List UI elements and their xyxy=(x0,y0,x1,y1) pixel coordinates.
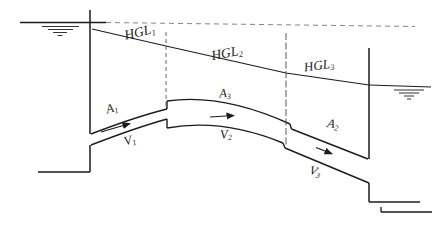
right-ground-line xyxy=(381,207,432,212)
pipe-segment1-top xyxy=(91,109,167,134)
left-reservoir xyxy=(20,10,106,172)
right-reservoir xyxy=(369,48,432,212)
pipe-step2-bottom xyxy=(283,143,285,148)
right-water-surface-icon xyxy=(394,90,424,99)
right-water-surface-line xyxy=(369,85,431,87)
pipe-segment3-bottom xyxy=(285,148,369,183)
area2-label: A2 xyxy=(326,117,340,132)
hgl3-label-base: HGL xyxy=(303,56,331,74)
hgl2-label-base: HGL xyxy=(210,43,239,62)
pipe-flow-diagram: HGL1 HGL2 HGL3 A1 A3 A2 V1 V2 V3 xyxy=(0,0,448,229)
diagram-linework xyxy=(0,0,448,229)
velocity2-label: V2 xyxy=(220,128,233,143)
flow-arrow-v2-icon xyxy=(210,116,234,118)
velocity2-label-subscript: 2 xyxy=(228,133,233,142)
area3-label: A3 xyxy=(219,87,232,102)
pipe-step2-top xyxy=(290,124,292,129)
pipe-segment2-top xyxy=(167,99,290,124)
flow-arrows xyxy=(101,116,332,154)
flow-arrow-v3-icon xyxy=(316,148,332,154)
left-water-surface-icon xyxy=(42,27,79,36)
pipe-segment3-top xyxy=(292,129,369,159)
area3-label-subscript: 3 xyxy=(227,92,232,101)
